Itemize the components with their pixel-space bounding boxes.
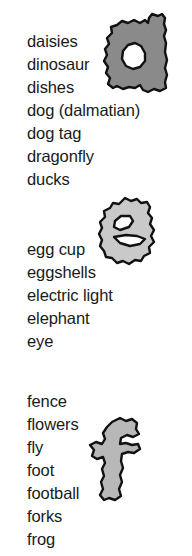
list-item: dinosaur <box>27 53 140 76</box>
list-item: dishes <box>27 76 140 99</box>
word-list-page: daisies dinosaur dishes dog (dalmatian) … <box>0 0 192 556</box>
list-item: fence <box>27 390 79 413</box>
list-item: dog tag <box>27 122 140 145</box>
list-item: egg cup <box>27 238 113 261</box>
letter-f-blob-icon <box>87 416 145 504</box>
word-list-d: daisies dinosaur dishes dog (dalmatian) … <box>27 30 140 191</box>
list-item: flowers <box>27 413 79 436</box>
list-item: elephant <box>27 307 113 330</box>
list-item: frog <box>27 528 79 551</box>
list-item: football <box>27 482 79 505</box>
list-item: foot <box>27 459 79 482</box>
list-item: electric light <box>27 284 113 307</box>
list-item: dragonfly <box>27 145 140 168</box>
list-item: eggshells <box>27 261 113 284</box>
list-item: ducks <box>27 168 140 191</box>
letter-f-blob-shape <box>90 418 140 500</box>
word-list-e: egg cup eggshells electric light elephan… <box>27 238 113 353</box>
list-item: eye <box>27 330 113 353</box>
list-item: daisies <box>27 30 140 53</box>
list-item: dog (dalmatian) <box>27 99 140 122</box>
word-list-f: fence flowers fly foot football forks fr… <box>27 390 79 551</box>
list-item: forks <box>27 505 79 528</box>
list-item: fly <box>27 436 79 459</box>
